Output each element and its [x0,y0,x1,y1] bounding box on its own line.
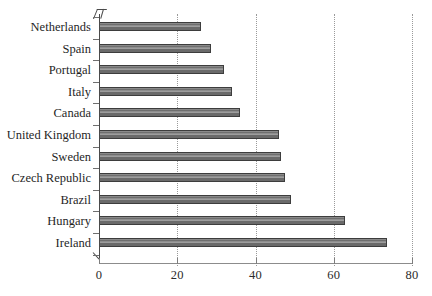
category-label-united-kingdom: United Kingdom [0,128,95,143]
category-label-hungary: Hungary [0,214,95,229]
y-tick-3 [93,82,99,83]
x-tick-label-80: 80 [392,268,432,283]
bar-chart: 020406080 NetherlandsSpainPortugalItalyC… [0,0,432,296]
bar-netherlands [99,22,201,31]
x-tick-60 [334,258,335,264]
category-label-netherlands: Netherlands [0,20,95,35]
x-tick-label-40: 40 [236,268,276,283]
category-label-czech-republic: Czech Republic [0,171,95,186]
y-axis-arrow-icon [94,8,104,17]
x-tick-label-20: 20 [157,268,197,283]
bar-portugal [99,65,224,74]
y-tick-8 [93,190,99,191]
y-tick-10 [93,233,99,234]
gridline-60 [334,14,335,266]
y-tick-6 [93,147,99,148]
category-label-spain: Spain [0,42,95,57]
category-label-sweden: Sweden [0,150,95,165]
y-tick-2 [93,60,99,61]
bar-italy [99,87,232,96]
x-tick-80 [412,258,413,264]
bar-brazil [99,195,291,204]
x-tick-20 [177,258,178,264]
y-tick-7 [93,168,99,169]
y-tick-0 [93,17,99,18]
bar-hungary [99,216,345,225]
category-label-canada: Canada [0,106,95,121]
bar-united-kingdom [99,130,279,139]
bar-spain [99,44,211,53]
gridline-80 [412,14,413,266]
category-label-portugal: Portugal [0,63,95,78]
y-tick-9 [93,211,99,212]
gridline-40 [256,14,257,266]
category-label-italy: Italy [0,85,95,100]
category-label-brazil: Brazil [0,193,95,208]
y-tick-4 [93,103,99,104]
x-tick-0 [99,258,100,264]
y-tick-1 [93,39,99,40]
x-tick-label-0: 0 [79,268,119,283]
bar-ireland [99,238,387,247]
x-tick-label-60: 60 [314,268,354,283]
bar-canada [99,108,240,117]
y-axis-line [99,14,100,264]
bar-sweden [99,152,281,161]
x-tick-40 [256,258,257,264]
y-tick-end [93,255,99,256]
category-label-ireland: Ireland [0,236,95,251]
y-tick-5 [93,125,99,126]
bar-czech-republic [99,173,285,182]
